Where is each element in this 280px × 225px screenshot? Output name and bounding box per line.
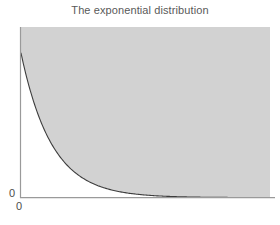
shaded-area-above-curve (21, 27, 270, 198)
y-axis-tick-label-0: 0 (9, 188, 15, 199)
x-axis-tick-label-0: 0 (16, 201, 22, 212)
plot-area (0, 0, 280, 225)
exponential-distribution-figure: The exponential distribution 0 0 (0, 0, 280, 225)
